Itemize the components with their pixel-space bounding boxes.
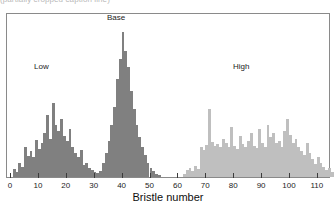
x-axis: 0102030405060708090100110 (6, 177, 330, 178)
x-axis-tick (317, 173, 318, 178)
x-axis-tick (233, 173, 234, 178)
cropped-caption-sliver: (partially cropped caption line) (0, 0, 336, 9)
cluster-label-low: Low (34, 62, 49, 71)
x-axis-tick (94, 173, 95, 178)
x-axis-tick-label: 20 (54, 181, 78, 190)
x-axis-tick (289, 173, 290, 178)
x-axis-tick-label: 90 (249, 181, 273, 190)
x-axis-tick (177, 173, 178, 178)
x-axis-title: Bristle number (0, 191, 336, 204)
x-axis-tick-label: 40 (110, 181, 134, 190)
histogram-bar (331, 172, 334, 177)
cluster-label-base: Base (107, 13, 125, 22)
x-axis-tick-label: 0 (0, 181, 22, 190)
x-axis-tick-label: 80 (221, 181, 245, 190)
x-axis-tick-label: 30 (82, 181, 106, 190)
x-axis-tick (261, 173, 262, 178)
x-axis-tick-label: 50 (138, 181, 162, 190)
x-axis-tick (122, 173, 123, 178)
x-axis-tick (66, 173, 67, 178)
histogram-figure: (partially cropped caption line) Low Bas… (0, 0, 336, 209)
x-axis-tick (150, 173, 151, 178)
x-axis-tick-label: 60 (165, 181, 189, 190)
x-axis-tick-label: 100 (277, 181, 301, 190)
x-axis-tick (205, 173, 206, 178)
plot-area (7, 14, 329, 177)
cropped-caption-text: (partially cropped caption line) (0, 0, 336, 4)
x-axis-tick (10, 173, 11, 178)
cluster-label-high: High (233, 62, 249, 71)
bar-series-high (7, 14, 329, 177)
x-axis-tick (38, 173, 39, 178)
x-axis-tick-label: 70 (193, 181, 217, 190)
x-axis-tick-label: 110 (305, 181, 329, 190)
x-axis-tick-label: 10 (26, 181, 50, 190)
